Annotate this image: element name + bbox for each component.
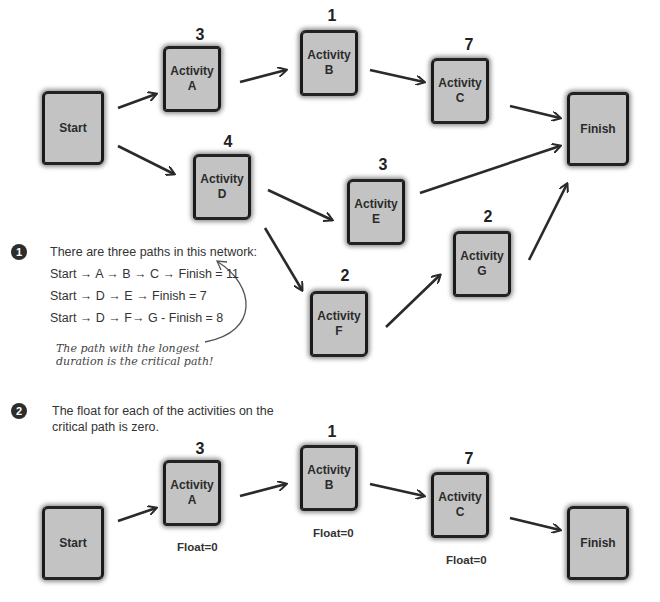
node-label: Activity (354, 197, 397, 212)
node-activity-c: ActivityC (431, 58, 489, 124)
path-1: Start → A → B → C → Finish = 11 (50, 267, 239, 281)
node-activity-a: ActivityA (163, 46, 221, 112)
node-activity-b: ActivityB (300, 30, 358, 96)
node-letter: A (170, 79, 213, 94)
node-letter: G (460, 264, 503, 279)
arrow-b-c (370, 70, 424, 82)
duration-a: 3 (190, 26, 210, 44)
node-label: Finish (580, 122, 615, 137)
node2-activity-b: ActivityB (300, 445, 358, 511)
node-label: Activity (307, 463, 350, 478)
annotation-line: duration is the critical path! (56, 355, 213, 368)
node-finish: Finish (567, 92, 629, 166)
node-label: Activity (200, 172, 243, 187)
arrow-e-finish (420, 146, 560, 193)
node-activity-f: ActivityF (310, 291, 368, 357)
node-label: Activity (307, 48, 350, 63)
duration-g: 2 (478, 208, 498, 226)
float-a: Float=0 (177, 541, 218, 553)
node-letter: C (438, 91, 481, 106)
node-letter: B (307, 63, 350, 78)
node2-activity-c: ActivityC (431, 472, 489, 538)
node2-start: Start (42, 506, 104, 580)
node-label: Start (59, 536, 86, 551)
node-label: Activity (460, 249, 503, 264)
float-b: Float=0 (313, 527, 354, 539)
step-1-intro: There are three paths in this network: (50, 245, 257, 259)
arrow2-start-a (118, 508, 156, 521)
node2-activity-a: ActivityA (163, 460, 221, 526)
node-label: Activity (438, 76, 481, 91)
node-letter: D (200, 187, 243, 202)
step-2-badge: 2 (11, 403, 27, 419)
duration-b: 1 (322, 7, 342, 25)
step-1-badge: 1 (11, 244, 27, 260)
node-label: Activity (317, 309, 360, 324)
duration2-a: 3 (190, 440, 210, 458)
arrow-d-e (268, 190, 332, 220)
node-activity-d: ActivityD (193, 154, 251, 220)
annotation-line: The path with the longest (56, 342, 213, 355)
duration-e: 3 (373, 156, 393, 174)
node-label: Finish (580, 536, 615, 551)
arrow-start-a (118, 94, 156, 108)
node-start: Start (42, 91, 104, 165)
node-letter: F (317, 324, 360, 339)
arrow-f-g (386, 275, 440, 327)
arrow-d-f (265, 228, 302, 290)
node-letter: B (307, 478, 350, 493)
critical-path-annotation: The path with the longest duration is th… (56, 342, 213, 368)
arrow-c-finish (510, 106, 560, 118)
path-2: Start → D → E → Finish = 7 (50, 289, 207, 303)
duration-f: 2 (335, 267, 355, 285)
duration-c: 7 (459, 36, 479, 54)
duration2-c: 7 (459, 450, 479, 468)
arrow2-c-finish (510, 518, 560, 530)
arrow2-b-c (370, 484, 424, 496)
arrow-start-d (118, 146, 174, 174)
node-letter: C (438, 505, 481, 520)
node-label: Activity (170, 478, 213, 493)
node-label: Activity (438, 490, 481, 505)
node-letter: E (354, 212, 397, 227)
path-3: Start → D → F→ G - Finish = 8 (50, 311, 223, 325)
duration2-b: 1 (322, 423, 342, 441)
node-activity-g: ActivityG (453, 231, 511, 297)
float-c: Float=0 (446, 554, 487, 566)
step-2-text-line1: The float for each of the activities on … (52, 404, 274, 418)
node-activity-e: ActivityE (347, 179, 405, 245)
step-2-text-line2: critical path is zero. (52, 420, 159, 434)
node2-finish: Finish (567, 506, 629, 580)
node-letter: A (170, 493, 213, 508)
arrow-g-finish (529, 184, 567, 260)
duration-d: 4 (218, 133, 238, 151)
arrow2-a-b (240, 484, 286, 496)
node-label: Start (59, 121, 86, 136)
arrow-a-b (240, 70, 286, 82)
node-label: Activity (170, 64, 213, 79)
